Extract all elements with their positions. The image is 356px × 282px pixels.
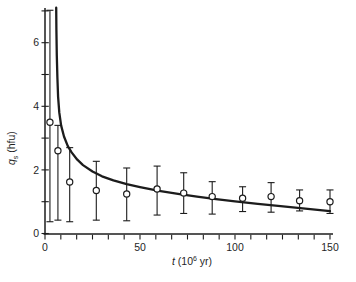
data-point-marker (297, 198, 303, 204)
y-tick-label: 2 (33, 164, 39, 176)
data-point-marker (181, 190, 187, 196)
y-tick-label: 0 (33, 227, 39, 239)
x-axis-label: t (106 yr) (172, 255, 212, 267)
data-point-marker (124, 191, 130, 197)
x-tick-label: 0 (42, 241, 48, 253)
x-tick-label: 150 (321, 241, 339, 253)
data-point-marker (67, 179, 73, 185)
data-point-marker (47, 119, 53, 125)
theory-curve (56, 8, 330, 212)
data-point-marker (240, 195, 246, 201)
x-tick-label: 50 (134, 241, 146, 253)
axes (42, 8, 334, 240)
data-point-marker (327, 199, 333, 205)
figure-canvas: 0501001500246t (106 yr)qs (hfu) (0, 0, 356, 282)
data-point-marker (268, 194, 274, 200)
y-tick-label: 4 (33, 100, 39, 112)
data-point-marker (93, 187, 99, 193)
heat-flow-vs-age-chart: 0501001500246t (106 yr)qs (hfu) (0, 0, 356, 282)
data-point-marker (154, 186, 160, 192)
data-point-marker (55, 148, 61, 154)
data-point-marker (209, 194, 215, 200)
theory-curve-path (56, 8, 330, 212)
x-tick-label: 100 (226, 241, 244, 253)
y-tick-label: 6 (33, 36, 39, 48)
y-axis-label: qs (hfu) (5, 131, 19, 165)
data-points (46, 10, 333, 221)
